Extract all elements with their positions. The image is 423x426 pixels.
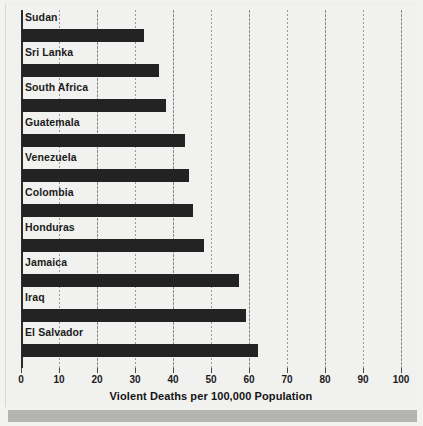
bar-category-label: South Africa <box>25 81 88 93</box>
bar <box>22 134 185 147</box>
bar <box>22 29 144 42</box>
chart-figure: SudanSri LankaSouth AfricaGuatemalaVenez… <box>0 0 423 426</box>
bar <box>22 99 166 112</box>
bar-row: South Africa <box>21 80 401 115</box>
x-tick-mark <box>287 368 288 373</box>
bar-category-label: Honduras <box>25 221 75 233</box>
x-tick-mark <box>97 368 98 373</box>
x-tick-label: 30 <box>129 374 140 385</box>
plot-area: SudanSri LankaSouth AfricaGuatemalaVenez… <box>21 10 401 368</box>
x-tick-label: 90 <box>357 374 368 385</box>
bar <box>22 239 204 252</box>
x-tick-label: 10 <box>53 374 64 385</box>
x-tick-mark <box>173 368 174 373</box>
gridline-100 <box>401 10 402 368</box>
x-axis-title: Violent Deaths per 100,000 Population <box>21 390 401 402</box>
bar-row: Sudan <box>21 10 401 45</box>
x-tick-mark <box>363 368 364 373</box>
bar <box>22 204 193 217</box>
x-tick-label: 20 <box>91 374 102 385</box>
bar <box>22 274 239 287</box>
bar-category-label: Venezuela <box>25 151 77 163</box>
bar-category-label: Iraq <box>25 291 45 303</box>
bar-row: Iraq <box>21 290 401 325</box>
bar <box>22 64 159 77</box>
x-tick-mark <box>59 368 60 373</box>
x-tick-label: 50 <box>205 374 216 385</box>
bar-row: Colombia <box>21 185 401 220</box>
x-tick-label: 60 <box>243 374 254 385</box>
bar-category-label: Colombia <box>25 186 74 198</box>
bar-category-label: Guatemala <box>25 116 80 128</box>
x-tick-label: 0 <box>18 374 24 385</box>
x-tick-mark <box>135 368 136 373</box>
x-tick-mark <box>325 368 326 373</box>
bar-category-label: El Salvador <box>25 326 83 338</box>
x-tick-label: 40 <box>167 374 178 385</box>
bar-row: Honduras <box>21 220 401 255</box>
bar-row: Guatemala <box>21 115 401 150</box>
bar <box>22 309 246 322</box>
bar <box>22 169 189 182</box>
bar-row: El Salvador <box>21 325 401 360</box>
bar-category-label: Sudan <box>25 11 58 23</box>
x-tick-mark <box>21 368 22 373</box>
x-tick-label: 80 <box>319 374 330 385</box>
x-tick-mark <box>211 368 212 373</box>
footer-band <box>8 410 417 422</box>
x-tick-mark <box>401 368 402 373</box>
x-tick-label: 70 <box>281 374 292 385</box>
bar-row: Venezuela <box>21 150 401 185</box>
x-tick-mark <box>249 368 250 373</box>
bar-category-label: Jamaica <box>25 256 67 268</box>
bar-category-label: Sri Lanka <box>25 46 73 58</box>
bar-row: Jamaica <box>21 255 401 290</box>
bar <box>22 344 258 357</box>
bar-row: Sri Lanka <box>21 45 401 80</box>
x-tick-label: 100 <box>393 374 410 385</box>
